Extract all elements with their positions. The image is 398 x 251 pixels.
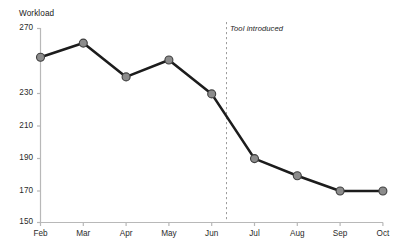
x-tick-label-jul: Jul xyxy=(240,229,270,238)
data-point-sep xyxy=(336,187,344,195)
x-tick-label-may: May xyxy=(154,229,184,238)
y-tick-label-230: 230 xyxy=(11,88,33,97)
y-tick-label-270: 270 xyxy=(11,23,33,32)
y-axis-title: Workload xyxy=(19,9,54,18)
y-tick-label-190: 190 xyxy=(11,153,33,162)
workload-series-line xyxy=(41,43,383,191)
x-tick-label-apr: Apr xyxy=(111,229,141,238)
x-tick-label-feb: Feb xyxy=(26,229,56,238)
data-point-mar xyxy=(79,39,87,47)
workload-line-chart: Workload 270 230 210 190 170 150 Feb Mar… xyxy=(0,0,398,251)
data-point-aug xyxy=(293,172,301,180)
tool-introduced-annotation-label: Tool introduced xyxy=(230,24,283,33)
chart-plot-area xyxy=(0,0,398,251)
x-tick-label-oct: Oct xyxy=(368,229,398,238)
data-point-feb xyxy=(37,53,45,61)
data-point-apr xyxy=(122,73,130,81)
y-tick-label-170: 170 xyxy=(11,186,33,195)
data-point-oct xyxy=(379,187,387,195)
x-tick-label-mar: Mar xyxy=(68,229,98,238)
x-tick-label-jun: Jun xyxy=(197,229,227,238)
data-point-may xyxy=(165,56,173,64)
y-tick-label-150: 150 xyxy=(11,217,33,226)
data-point-jun xyxy=(208,90,216,98)
y-tick-label-210: 210 xyxy=(11,121,33,130)
x-tick-label-aug: Aug xyxy=(282,229,312,238)
x-tick-label-sep: Sep xyxy=(325,229,355,238)
data-point-jul xyxy=(251,155,259,163)
workload-series-markers xyxy=(37,39,387,195)
